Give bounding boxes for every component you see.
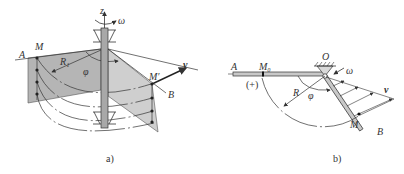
label-a: A <box>18 49 26 60</box>
velocity-tip-line <box>360 99 394 115</box>
point-m <box>35 56 38 59</box>
label-z: z <box>99 5 104 16</box>
rod-oa <box>233 72 326 76</box>
label-r1: R₁ <box>59 56 70 67</box>
omega-rotation-icon <box>95 20 116 24</box>
velocity-vector-1 <box>333 81 344 86</box>
label-r: R <box>292 87 299 98</box>
label-omega: ω <box>118 15 125 26</box>
label-plus: (+) <box>246 79 258 91</box>
point-m-b <box>357 112 360 115</box>
label-v: v <box>183 59 188 70</box>
label-v-b: v <box>384 84 389 95</box>
caption-a: a) <box>106 153 114 165</box>
omega-arrow-b <box>334 68 344 74</box>
label-omega-b: ω <box>346 65 353 76</box>
label-m0: M₀ <box>258 61 271 72</box>
r-arrow <box>284 76 325 106</box>
label-m: M <box>34 41 44 52</box>
label-b-b: B <box>377 126 383 137</box>
velocity-vector-2 <box>340 87 358 96</box>
label-mprime: M′ <box>148 71 160 82</box>
label-m-b: M <box>349 119 359 130</box>
velocity-vector-3 <box>347 93 373 106</box>
label-phi-b: φ <box>308 90 314 101</box>
label-o: O <box>322 51 329 62</box>
point-m-3 <box>35 80 38 83</box>
figure-a: A M R₁ φ z ω M′ B v a) <box>15 5 198 165</box>
diagram-canvas: A M R₁ φ z ω M′ B v a) <box>0 0 404 174</box>
shaft <box>101 28 108 128</box>
label-a-b: A <box>230 61 238 72</box>
point-mprime-3 <box>150 109 153 112</box>
point-m-4 <box>35 92 38 95</box>
figure-b: A M₀ (+) O ω R φ v M B b) <box>228 51 394 165</box>
caption-b: b) <box>333 153 341 165</box>
label-phi: φ <box>83 66 89 77</box>
label-b: B <box>168 89 174 100</box>
ground-hatch <box>315 62 334 66</box>
point-mprime-2 <box>150 96 153 99</box>
point-m-2 <box>35 68 38 71</box>
point-mprime-4 <box>150 120 153 123</box>
point-m0 <box>262 72 264 77</box>
